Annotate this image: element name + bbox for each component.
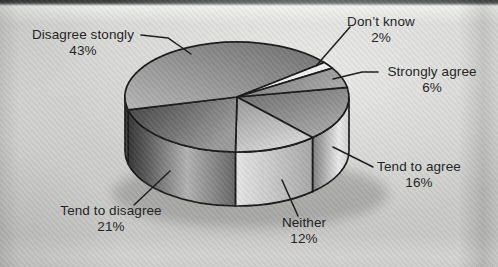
label-text: Neither <box>282 215 326 231</box>
leader-line-dont-know <box>316 27 350 66</box>
label-text: Strongly agree <box>387 64 476 80</box>
label-tend-to-agree: Tend to agree 16% <box>377 159 461 192</box>
label-pct: 12% <box>282 231 326 247</box>
label-dont-know: Don’t know 2% <box>347 14 415 47</box>
label-tend-to-disagree: Tend to disagree 21% <box>60 203 161 236</box>
label-text: Disagree stongly <box>32 27 134 43</box>
label-pct: 43% <box>32 43 134 59</box>
label-pct: 6% <box>387 80 476 96</box>
label-pct: 16% <box>377 175 461 191</box>
label-text: Don’t know <box>347 14 415 30</box>
label-text: Tend to disagree <box>60 203 161 219</box>
survey-pie-chart-figure: Disagree stongly 43% Don’t know 2% Stron… <box>0 0 498 267</box>
label-disagree-stongly: Disagree stongly 43% <box>32 27 134 60</box>
label-text: Tend to agree <box>377 159 461 175</box>
label-strongly-agree: Strongly agree 6% <box>387 64 476 97</box>
label-pct: 2% <box>347 30 415 46</box>
label-neither: Neither 12% <box>282 215 326 248</box>
label-pct: 21% <box>60 219 161 235</box>
